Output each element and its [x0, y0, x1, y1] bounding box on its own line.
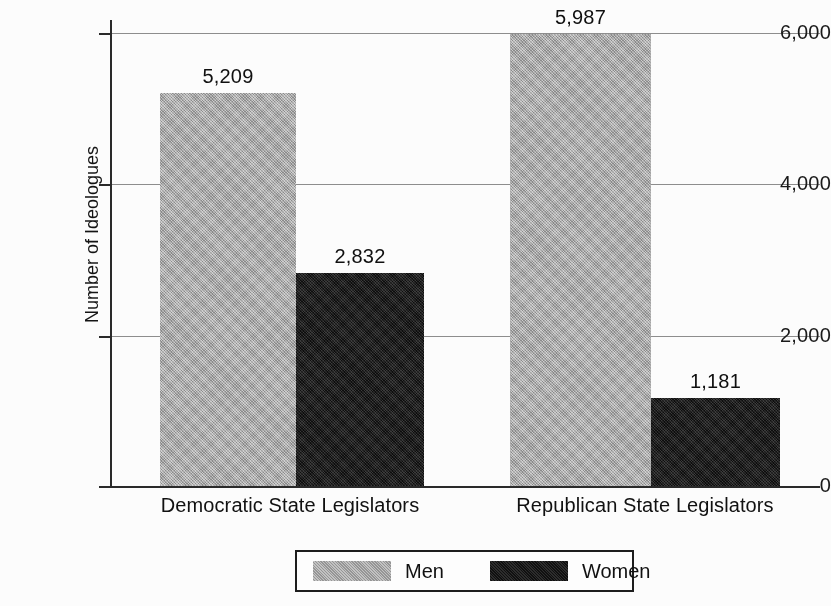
- category-label-democratic: Democratic State Legislators: [140, 494, 440, 517]
- bar-republican-men: [510, 34, 651, 487]
- bar-value-democratic-men: 5,209: [160, 65, 296, 88]
- legend-label-women: Women: [582, 560, 651, 583]
- legend-entry-men: Men: [313, 552, 444, 590]
- bar-value-republican-women: 1,181: [651, 370, 780, 393]
- legend-entry-women: Women: [490, 552, 651, 590]
- y-axis-line: [110, 20, 112, 488]
- y-tick-label-2000: 2,000: [741, 324, 831, 347]
- y-tick-label-4000: 4,000: [741, 172, 831, 195]
- x-axis-line: [110, 486, 820, 488]
- y-tick-0: [99, 486, 112, 488]
- bar-value-democratic-women: 2,832: [296, 245, 424, 268]
- bar-chart: 6,000 4,000 2,000 0 Number of Ideologues…: [0, 0, 831, 606]
- bar-value-republican-men: 5,987: [510, 6, 651, 29]
- y-tick-6000: [99, 33, 112, 35]
- y-axis-title: Number of Ideologues: [82, 85, 103, 385]
- category-label-republican: Republican State Legislators: [495, 494, 795, 517]
- legend-label-men: Men: [405, 560, 444, 583]
- y-tick-label-6000: 6,000: [741, 21, 831, 44]
- bar-democratic-men: [160, 93, 296, 487]
- chart-legend: Men Women: [295, 550, 634, 592]
- bar-democratic-women: [296, 273, 424, 487]
- plot-area: [110, 33, 820, 487]
- legend-swatch-men-icon: [313, 561, 391, 581]
- legend-swatch-women-icon: [490, 561, 568, 581]
- gridline-6000: [110, 33, 820, 34]
